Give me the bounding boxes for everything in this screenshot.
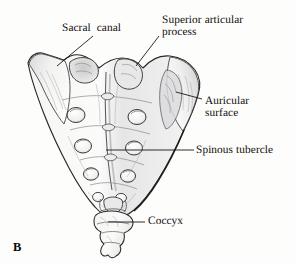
label-coccyx: Coccyx xyxy=(148,215,183,227)
label-superior-articular-process-line-1: Superior articular xyxy=(162,14,243,26)
coccyx-outline xyxy=(94,211,133,258)
label-sacral-canal-line-1: Sacral canal xyxy=(62,22,121,34)
label-spinous-tubercle: Spinous tubercle xyxy=(196,144,273,156)
sacrum-body xyxy=(28,53,200,218)
label-auricular-surface: Auricularsurface xyxy=(205,95,249,120)
label-sacral-canal: Sacral canal xyxy=(62,22,121,34)
label-auricular-surface-line-1: Auricular xyxy=(205,95,249,107)
coccyx xyxy=(94,209,133,258)
label-auricular-surface-line-2: surface xyxy=(205,107,238,119)
anatomical-figure: Sacral canal Superior articularprocess A… xyxy=(0,0,296,264)
label-superior-articular-process-line-2: process xyxy=(162,26,197,38)
label-coccyx-line-1: Coccyx xyxy=(148,215,183,227)
figure-letter: B xyxy=(13,240,21,255)
label-superior-articular-process: Superior articularprocess xyxy=(162,14,243,39)
label-spinous-tubercle-line-1: Spinous tubercle xyxy=(196,144,273,156)
